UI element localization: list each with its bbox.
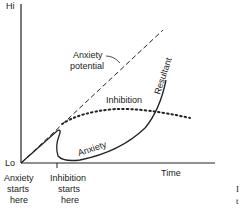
resultant-label: Resultant (152, 56, 173, 96)
y-hi-label: Hi (6, 1, 15, 11)
inhibition-label: Inhibition (106, 95, 142, 105)
anxiety-starts-label-1: Anxiety (4, 173, 34, 183)
anxiety-potential-pointer (106, 56, 120, 63)
anxiety-starts-label-2: starts (7, 184, 30, 194)
inhibition-starts-label-1: Inhibition (50, 173, 86, 183)
inhibition-starts-label-2: starts (58, 184, 81, 194)
anxiety-potential-label-2: potential (70, 61, 104, 71)
anxiety-potential-label-1: Anxiety (73, 50, 103, 60)
cropped-caption-text-2: t (236, 196, 239, 206)
inhibition-curve (62, 109, 190, 124)
y-lo-label: Lo (5, 158, 15, 168)
cropped-caption-text-1: I (236, 184, 239, 194)
x-axis-label: Time (161, 168, 181, 178)
anxiety-inhibition-diagram: Hi Lo Anxiety potential Inhibition Resul… (0, 0, 244, 209)
inhibition-starts-label-3: here (61, 195, 79, 205)
anxiety-starts-label-3: here (10, 195, 28, 205)
anxiety-label: Anxiety (77, 139, 109, 158)
